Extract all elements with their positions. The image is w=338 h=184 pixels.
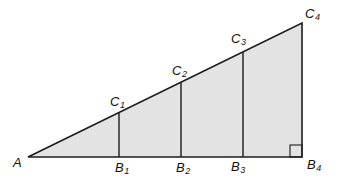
label-point-c2: C2 (172, 64, 186, 77)
label-point-b1-subscript: 1 (124, 166, 129, 176)
label-point-b2: B2 (176, 161, 190, 174)
label-point-c4-letter: C (305, 6, 314, 21)
label-point-a: A (13, 156, 22, 169)
label-point-c4-subscript: 4 (315, 12, 320, 22)
triangle-shape (28, 23, 302, 157)
label-point-c2-subscript: 2 (182, 69, 187, 79)
label-point-b3: B3 (231, 160, 245, 173)
label-point-c1-subscript: 1 (120, 100, 125, 110)
label-point-b3-letter: B (231, 159, 240, 174)
label-point-a-letter: A (13, 155, 22, 170)
label-point-b1-letter: B (115, 160, 124, 175)
label-point-b2-letter: B (176, 160, 185, 175)
label-point-b2-subscript: 2 (185, 166, 190, 176)
label-point-b1: B1 (115, 161, 129, 174)
label-point-c1-letter: C (110, 94, 119, 109)
label-point-b3-subscript: 3 (240, 165, 245, 175)
label-point-c4: C4 (305, 7, 319, 20)
geometry-diagram: A B1 B2 B3 B4 C1 C2 C3 C4 (0, 0, 338, 184)
triangle-figure-canvas (0, 0, 338, 184)
label-point-b4-subscript: 4 (316, 163, 321, 173)
label-point-b4-letter: B (307, 157, 316, 172)
label-point-b4: B4 (307, 158, 321, 171)
label-point-c3-subscript: 3 (241, 37, 246, 47)
label-point-c2-letter: C (172, 63, 181, 78)
label-point-c1: C1 (110, 95, 124, 108)
label-point-c3-letter: C (231, 31, 240, 46)
label-point-c3: C3 (231, 32, 245, 45)
